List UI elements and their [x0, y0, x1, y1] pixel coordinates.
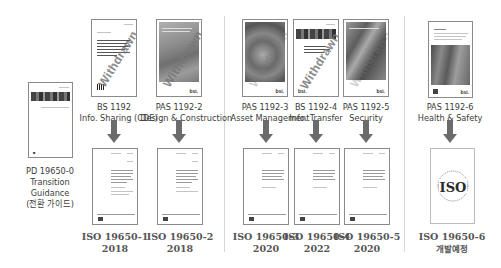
iso-label-19650-2: ISO 19650-2 2018	[145, 231, 215, 255]
arrow-down-icon	[359, 120, 373, 144]
arrow-down-icon	[443, 120, 457, 144]
cover-iso-19650-2	[157, 148, 203, 225]
iso-label-19650-6: ISO 19650-6 개발예정	[417, 231, 487, 255]
cover-iso-19650-1	[92, 148, 138, 225]
cover-bs-1192-4: bsi. Withdrawn	[293, 19, 339, 97]
transition-line4: (전환 가이드)	[16, 198, 85, 209]
group-separator-2	[404, 16, 405, 252]
withdrawn-watermark: Withdrawn	[297, 30, 339, 92]
cover-pas-1192-2: bsi. Withdrawn	[156, 19, 202, 97]
group-separator-1	[224, 16, 225, 252]
transition-code: PD 19650-0	[16, 165, 85, 176]
arrow-down-icon	[309, 120, 323, 144]
transition-line2: Transition	[16, 176, 85, 187]
arrow-down-icon	[259, 120, 273, 144]
svg-text:ISO: ISO	[439, 180, 466, 195]
cover-iso-19650-4	[294, 148, 340, 225]
bsi-logo: bsi.	[460, 89, 469, 95]
bsi-logo: bsi.	[189, 88, 198, 94]
iso-label-19650-1: ISO 19650-1 2018	[80, 231, 150, 255]
iso-logo-icon: ISO	[436, 169, 470, 203]
withdrawn-watermark: Withdrawn	[95, 28, 137, 90]
cover-bs-1192: Withdrawn	[91, 19, 137, 97]
cover-pas-1192-3: bsi. Withdrawn	[242, 19, 288, 97]
bsi-logo: bsi.	[376, 88, 385, 94]
transition-guidance-label: PD 19650-0 Transition Guidance (전환 가이드)	[16, 165, 85, 209]
bsi-logo: bsi.	[275, 88, 284, 94]
transition-line3: Guidance	[16, 187, 85, 198]
cover-iso-19650-5	[344, 148, 390, 225]
iso-label-19650-5: ISO 19650-5 2020	[332, 231, 402, 255]
cover-pd-19650-0: ■	[28, 82, 73, 158]
cover-iso-19650-3	[243, 148, 289, 225]
cover-pas-1192-5: bsi. Withdrawn	[343, 19, 389, 97]
cover-iso-19650-6: ISO	[430, 148, 475, 224]
development-planned-label: 개발예정	[417, 243, 487, 255]
arrow-down-icon	[172, 120, 186, 144]
cover-pas-1192-6: bsi.	[428, 21, 473, 98]
arrow-down-icon	[107, 120, 121, 144]
